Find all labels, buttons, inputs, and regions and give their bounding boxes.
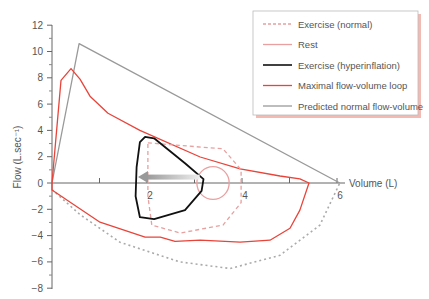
y-tick-label: 6: [37, 99, 43, 110]
y-tick-label: 10: [32, 46, 44, 57]
y-tick-label: 4: [37, 125, 43, 136]
shift-arrow: [138, 171, 200, 183]
legend: Exercise (normal)RestExercise (hyperinfl…: [253, 11, 423, 118]
y-tick-label: 0: [37, 178, 43, 189]
x-tick-label: 4: [242, 190, 248, 201]
y-tick-label: 12: [32, 20, 44, 31]
legend-label: Predicted normal flow-volume: [298, 101, 423, 112]
y-tick-label: −2: [32, 204, 44, 215]
y-tick-label: −8: [32, 283, 44, 294]
y-tick-label: 2: [37, 151, 43, 162]
legend-label: Exercise (hyperinflation): [298, 60, 400, 71]
series-predicted-normal-flow-volume-inspiratory: [52, 183, 340, 269]
y-tick-label: −4: [32, 230, 44, 241]
x-axis-title: Volume (L): [349, 178, 397, 189]
legend-label: Rest: [298, 39, 318, 50]
flow-volume-chart: 121086420−2−4−6−8 246 Volume (L) Flow (L…: [0, 0, 429, 299]
legend-label: Exercise (normal): [298, 19, 372, 30]
series-exercise-normal: [148, 143, 241, 233]
y-axis-title: Flow (L.sec⁻¹): [12, 126, 23, 189]
y-tick-label: 8: [37, 72, 43, 83]
annotation-layer: [138, 171, 200, 183]
y-tick-label: −6: [32, 256, 44, 267]
x-tick-label: 6: [337, 190, 343, 201]
legend-label: Maximal flow-volume loop: [298, 80, 407, 91]
arrow-shaft: [146, 175, 200, 180]
arrow-head: [138, 171, 148, 183]
